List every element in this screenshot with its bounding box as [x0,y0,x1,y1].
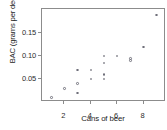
data-point [90,69,93,72]
data-point [116,55,119,58]
y-tick-label: 0.05 [6,74,36,82]
data-point [129,57,132,60]
data-point [103,55,106,58]
data-points-layer [42,9,164,100]
y-tick-label: 0.10 [6,51,36,59]
data-point [76,69,79,72]
data-point [90,78,93,81]
data-point [103,78,106,81]
y-tick-label: 0.15 [6,28,36,36]
data-point [50,96,53,99]
data-point [63,87,66,90]
data-point [155,14,158,17]
data-point [103,62,106,65]
data-point [103,73,106,76]
data-point [129,59,132,62]
y-tick-label-text: 0.10 [6,51,36,60]
data-point [76,82,79,85]
data-point [142,46,145,49]
scatter-chart-figure: BAC (grams per deciliter) 0.050.100.15 2… [0,0,167,130]
plot-area [41,8,165,101]
x-axis-title: Cans of beer [41,114,165,123]
y-tick-label-text: 0.05 [6,74,36,83]
data-point [76,92,79,95]
y-tick-label-text: 0.15 [6,28,36,37]
